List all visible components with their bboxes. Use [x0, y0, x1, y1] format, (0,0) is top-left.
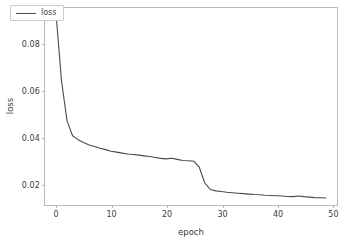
x-tick-label: 0 [54, 210, 59, 219]
y-tick-mark [42, 91, 45, 92]
x-tick-mark [56, 205, 57, 208]
x-tick-label: 20 [162, 210, 172, 219]
x-tick-mark [333, 205, 334, 208]
x-tick-label: 40 [273, 210, 283, 219]
legend-label-loss: loss [41, 9, 56, 17]
x-tick-mark [167, 205, 168, 208]
x-tick-label: 10 [106, 210, 116, 219]
legend: loss [10, 5, 64, 21]
y-tick-mark [42, 138, 45, 139]
y-tick-mark [42, 44, 45, 45]
y-tick-label: 0.08 [22, 40, 40, 49]
y-tick-label: 0.02 [22, 180, 40, 189]
y-tick-label: 0.04 [22, 133, 40, 142]
x-tick-mark [223, 205, 224, 208]
y-tick-label: 0.06 [22, 87, 40, 96]
plot-area: 0.020.040.060.0801020304050 [44, 7, 338, 206]
y-axis-label: loss [5, 98, 15, 114]
legend-line-swatch [16, 13, 36, 14]
x-tick-mark [112, 205, 113, 208]
loss-curve-figure: 0.020.040.060.0801020304050 loss epoch l… [0, 0, 346, 249]
x-tick-label: 50 [328, 210, 338, 219]
x-axis-label: epoch [44, 227, 338, 237]
loss-line-series [56, 14, 326, 198]
y-tick-mark [42, 185, 45, 186]
loss-line-svg [45, 8, 337, 205]
x-tick-label: 30 [217, 210, 227, 219]
x-tick-mark [278, 205, 279, 208]
